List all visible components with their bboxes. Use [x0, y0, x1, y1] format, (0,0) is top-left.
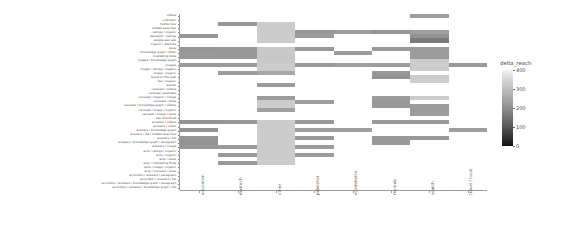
- colorbar-title: delta_reach: [500, 60, 531, 66]
- heatmap-cell: [257, 185, 295, 189]
- colorbar-tick-mark: [513, 108, 515, 109]
- heatmap-plot-area: [180, 14, 487, 190]
- colorbar-tick-label: 400: [516, 68, 526, 73]
- y-axis: videosunknowntwitter boxrelated searches…: [0, 14, 180, 190]
- heatmap-row: [180, 185, 487, 189]
- x-tick-label: publisher: [316, 176, 320, 195]
- x-tick-label: education: [201, 174, 205, 195]
- y-tick-label: amp / ratings / organic: [143, 150, 176, 153]
- colorbar-tick-mark: [513, 127, 515, 128]
- colorbar-tick-label: 0: [516, 144, 519, 149]
- x-tick-label: travel / local: [469, 169, 473, 195]
- x-tick-label: martech: [239, 177, 243, 195]
- y-tick-label: unknown: [163, 19, 176, 22]
- y-tick-label: images / knowledge graph: [138, 59, 176, 62]
- x-tick-label: ecommerce: [354, 170, 358, 195]
- x-tick-label: search: [431, 181, 435, 195]
- colorbar-tick-label: 300: [516, 87, 526, 92]
- colorbar-tick-mark: [513, 89, 515, 90]
- x-tick-label: other: [278, 184, 282, 195]
- heatmap-figure: videosunknowntwitter boxrelated searches…: [0, 0, 562, 242]
- colorbar-tick-mark: [513, 70, 515, 71]
- x-tick-label: reviews: [393, 179, 397, 195]
- y-tick-label: videos: [167, 14, 176, 17]
- x-axis: educationmartechotherpublisherecommercer…: [180, 190, 487, 242]
- colorbar-tick-label: 200: [516, 106, 526, 111]
- colorbar-gradient: [502, 70, 513, 146]
- y-tick-label: accordion / answers / knowledge graph / …: [112, 186, 176, 189]
- colorbar-tick-label: 100: [516, 125, 526, 130]
- colorbar-tick-mark: [513, 146, 515, 147]
- colorbar-legend: delta_reach 4003002001000: [500, 60, 562, 180]
- y-tick-label: answers / image: [152, 145, 176, 148]
- y-tick-label: carousel / knowledge graph / videos: [124, 104, 176, 107]
